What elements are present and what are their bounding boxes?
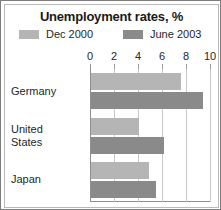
legend-swatch-dec-2000 [19,30,39,39]
bar [91,162,149,179]
x-tick-label: 10 [204,50,216,62]
bar [91,92,203,109]
y-category-label: Japan [11,173,83,186]
legend-entry-dec-2000: Dec 2000 [19,27,93,41]
plot-area [90,69,210,202]
y-category-label-line: Japan [11,173,83,186]
chart-title: Unemployment rates, % [5,9,218,24]
y-category-label-line: States [11,136,83,149]
y-axis-category-labels: GermanyUnitedStatesJapan [11,69,89,202]
bar [91,118,139,135]
x-tick-label: 2 [111,50,117,62]
y-category-label-line: Germany [11,85,83,98]
y-category-label: Germany [11,85,83,98]
x-axis-line [90,201,210,202]
y-category-label-line: United [11,123,83,136]
chart-figure: Unemployment rates, % Dec 2000 June 2003… [0,0,221,210]
bar [91,181,156,198]
x-tick-label: 0 [87,50,93,62]
legend-entry-june-2003: June 2003 [123,27,201,41]
y-category-label: UnitedStates [11,123,83,149]
chart-legend: Dec 2000 June 2003 [5,27,218,41]
x-tick-label: 6 [159,50,165,62]
legend-label-dec-2000: Dec 2000 [46,28,93,40]
bar [91,73,181,90]
gridline [186,69,187,202]
x-axis-tick-labels: 0246810 [90,50,210,64]
x-tick-label: 8 [183,50,189,62]
bar [91,137,164,154]
legend-swatch-june-2003 [123,30,143,39]
gridline [210,69,211,202]
legend-label-june-2003: June 2003 [150,28,201,40]
x-tick-label: 4 [135,50,141,62]
chart-inner-frame: Unemployment rates, % Dec 2000 June 2003… [4,4,219,208]
